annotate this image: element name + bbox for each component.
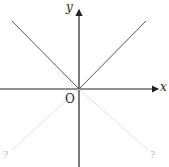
coordinate-diagram bbox=[0, 0, 169, 167]
unknown-label-right: ? bbox=[150, 149, 155, 160]
line-upper-right bbox=[79, 21, 146, 89]
x-axis-label: x bbox=[160, 80, 167, 94]
y-axis-label: y bbox=[66, 0, 73, 14]
line-upper-left bbox=[12, 21, 79, 89]
origin-label: O bbox=[65, 92, 75, 106]
unknown-label-left: ? bbox=[3, 149, 8, 160]
line-lower-right bbox=[79, 89, 148, 150]
